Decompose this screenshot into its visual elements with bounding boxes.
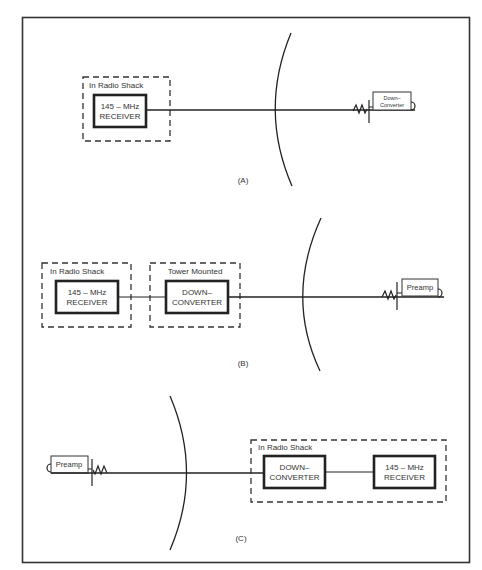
device-label: Preamp xyxy=(407,283,433,292)
panel-caption: (A) xyxy=(238,176,249,185)
downconverter-line1: DOWN– xyxy=(280,463,310,472)
downconverter-line1: DOWN– xyxy=(182,288,212,297)
receiver-block xyxy=(94,95,146,127)
downconverter-line2: CONVERTER xyxy=(269,473,319,482)
feed-loop-icon xyxy=(438,289,442,297)
downconverter-block xyxy=(264,456,325,488)
receiver-line2: RECEIVER xyxy=(67,298,108,307)
panel-b: In Radio Shack 145 – MHz RECEIVER Tower … xyxy=(42,218,444,371)
receiver-line2: RECEIVER xyxy=(100,112,141,121)
feed-loop-icon xyxy=(411,102,415,110)
downconverter-line2: CONVERTER xyxy=(172,298,222,307)
group-label: In Radio Shack xyxy=(50,267,105,276)
receiver-line1: 145 – MHz xyxy=(68,288,107,297)
downconverter-block xyxy=(166,281,228,313)
receiver-line2: RECEIVER xyxy=(384,473,425,482)
device-label: Preamp xyxy=(56,460,82,469)
feed-coil-icon xyxy=(353,105,367,113)
diagram-canvas: In Radio Shack 145 – MHz RECEIVER Down– … xyxy=(0,0,482,570)
device-line2: Converter xyxy=(380,102,404,108)
receiver-block xyxy=(374,456,435,488)
feed-coil-icon xyxy=(382,291,396,299)
panel-c: Preamp In Radio Shack DOWN– CONVERTER 14… xyxy=(47,396,446,550)
device-line1: Down– xyxy=(383,95,401,101)
receiver-line1: 145 – MHz xyxy=(101,102,140,111)
panel-a: In Radio Shack 145 – MHz RECEIVER Down– … xyxy=(83,33,415,186)
panel-caption: (B) xyxy=(238,359,249,368)
feed-loop-icon xyxy=(47,464,51,472)
dish-reflector xyxy=(303,218,321,371)
receiver-block xyxy=(56,281,118,313)
group-label: In Radio Shack xyxy=(89,81,144,90)
panel-caption: (C) xyxy=(235,534,246,543)
receiver-line1: 145 – MHz xyxy=(385,463,424,472)
group-label: Tower Mounted xyxy=(168,267,223,276)
group-label: In Radio Shack xyxy=(258,443,313,452)
